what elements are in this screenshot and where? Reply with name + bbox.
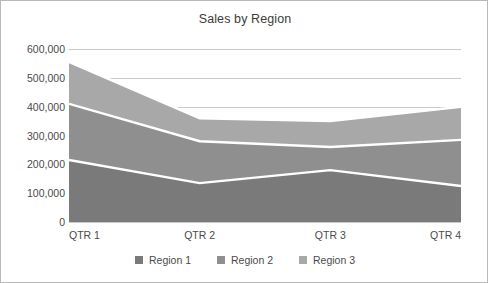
x-tick-label: QTR 1	[69, 229, 100, 241]
stacked-area-series	[69, 49, 461, 222]
legend-item-region-2[interactable]: Region 2	[217, 254, 273, 266]
y-tick-label: 0	[3, 216, 65, 228]
x-axis: QTR 1QTR 2QTR 3QTR 4	[1, 229, 488, 245]
legend-swatch-icon	[217, 256, 225, 264]
y-tick-label: 600,000	[3, 43, 65, 55]
chart-title: Sales by Region	[1, 12, 488, 26]
gridline	[69, 222, 461, 223]
y-tick-label: 300,000	[3, 130, 65, 142]
chart-card: Sales by Region 0100,000200,000300,00040…	[0, 0, 488, 283]
x-tick-label: QTR 2	[184, 229, 215, 241]
y-tick-label: 500,000	[3, 72, 65, 84]
y-tick-label: 400,000	[3, 101, 65, 113]
legend-swatch-icon	[135, 256, 143, 264]
legend-label: Region 2	[231, 254, 273, 266]
x-tick-label: QTR 4	[430, 229, 461, 241]
legend-item-region-3[interactable]: Region 3	[299, 254, 355, 266]
x-tick-label: QTR 3	[315, 229, 346, 241]
y-tick-label: 100,000	[3, 187, 65, 199]
legend-item-region-1[interactable]: Region 1	[135, 254, 191, 266]
y-tick-label: 200,000	[3, 158, 65, 170]
legend-label: Region 1	[149, 254, 191, 266]
legend-swatch-icon	[299, 256, 307, 264]
chart-legend: Region 1Region 2Region 3	[1, 254, 488, 266]
legend-label: Region 3	[313, 254, 355, 266]
plot-area	[69, 49, 461, 222]
